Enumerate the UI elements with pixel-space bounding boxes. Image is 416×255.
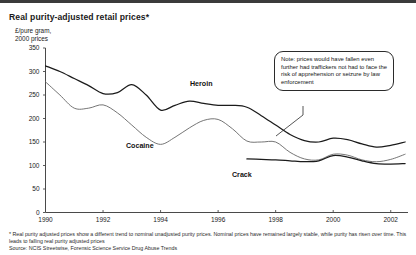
series-line-cocaine: [46, 82, 406, 162]
footnote-source: Source: NCIS Streetwise, Forensic Scienc…: [9, 245, 409, 252]
y-tick-label: 150: [18, 138, 40, 145]
y-tick-label: 350: [18, 44, 40, 51]
series-label-heroin: Heroin: [190, 80, 212, 88]
x-tick-label: 1994: [146, 216, 176, 223]
series-label-cocaine: Cocaine: [126, 142, 154, 150]
footnote-text: * Real purity adjusted prices show a dif…: [9, 231, 406, 244]
x-tick-label: 1998: [261, 216, 291, 223]
y-tick-label: 0: [18, 209, 40, 216]
x-tick-label: 2002: [376, 216, 406, 223]
annotation-leader-line: [276, 106, 303, 136]
x-tick-label: 1990: [31, 216, 61, 223]
x-tick-label: 1996: [203, 216, 233, 223]
y-tick-label: 200: [18, 115, 40, 122]
y-tick-label: 300: [18, 68, 40, 75]
annotation-note-text: Note: prices would have fallen even furt…: [281, 56, 387, 85]
chart-figure: Real purity-adjusted retail prices* £/pu…: [0, 0, 416, 255]
x-tick-label: 1992: [88, 216, 118, 223]
footnote: * Real purity adjusted prices show a dif…: [9, 231, 409, 252]
annotation-note-box: Note: prices would have fallen even furt…: [274, 51, 394, 91]
series-label-crack: Crack: [232, 171, 252, 179]
x-tick-label: 2000: [318, 216, 348, 223]
y-tick-label: 250: [18, 91, 40, 98]
y-tick-label: 50: [18, 185, 40, 192]
y-tick-label: 100: [18, 162, 40, 169]
